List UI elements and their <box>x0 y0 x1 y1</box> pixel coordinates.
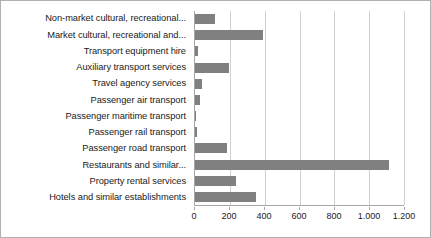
category-label: Passenger air transport <box>5 92 190 108</box>
category-label: Market cultural, recreational and... <box>5 27 190 43</box>
bar-row <box>195 43 404 59</box>
tick-mark <box>299 207 300 210</box>
value-axis: 02004006008001.0001.200 <box>194 207 404 227</box>
category-axis: Non-market cultural, recreational...Mark… <box>5 11 190 206</box>
bar[interactable] <box>195 63 229 73</box>
tick-label: 1.200 <box>393 211 416 221</box>
tick-label: 1.000 <box>358 211 381 221</box>
tick-label: 200 <box>221 211 236 221</box>
bar-row <box>195 92 404 108</box>
category-label: Travel agency services <box>5 76 190 92</box>
plot-area <box>194 11 404 206</box>
category-label: Passenger rail transport <box>5 125 190 141</box>
bar-row <box>195 11 404 27</box>
bar[interactable] <box>195 30 263 40</box>
bar-chart: Non-market cultural, recreational...Mark… <box>0 0 431 238</box>
category-label: Property rental services <box>5 174 190 190</box>
category-label: Auxiliary transport services <box>5 60 190 76</box>
category-label: Hotels and similar establishments <box>5 190 190 206</box>
bar-row <box>195 27 404 43</box>
bar[interactable] <box>195 79 202 89</box>
tick-mark <box>264 207 265 210</box>
bar-row <box>195 157 404 173</box>
gridline <box>404 11 405 205</box>
bar-row <box>195 124 404 140</box>
tick-mark <box>369 207 370 210</box>
bar[interactable] <box>195 95 200 105</box>
bar-row <box>195 140 404 156</box>
tick-mark <box>194 207 195 210</box>
tick-mark <box>229 207 230 210</box>
bar[interactable] <box>195 127 197 137</box>
bar-row <box>195 108 404 124</box>
bar-series <box>195 11 404 205</box>
tick-label: 0 <box>191 211 196 221</box>
tick-mark <box>334 207 335 210</box>
tick-label: 800 <box>326 211 341 221</box>
bar[interactable] <box>195 160 389 170</box>
category-label: Restaurants and similar... <box>5 157 190 173</box>
tick-label: 400 <box>256 211 271 221</box>
bar[interactable] <box>195 46 198 56</box>
category-label: Passenger road transport <box>5 141 190 157</box>
bar[interactable] <box>195 14 215 24</box>
category-label: Passenger maritime transport <box>5 109 190 125</box>
tick-mark <box>404 207 405 210</box>
bar[interactable] <box>195 176 236 186</box>
bar-row <box>195 60 404 76</box>
bar-row <box>195 76 404 92</box>
category-label: Transport equipment hire <box>5 44 190 60</box>
bar[interactable] <box>195 111 196 121</box>
category-label: Non-market cultural, recreational... <box>5 11 190 27</box>
tick-label: 600 <box>291 211 306 221</box>
bar[interactable] <box>195 143 227 153</box>
bar-row <box>195 173 404 189</box>
bar-row <box>195 189 404 205</box>
bar[interactable] <box>195 192 256 202</box>
